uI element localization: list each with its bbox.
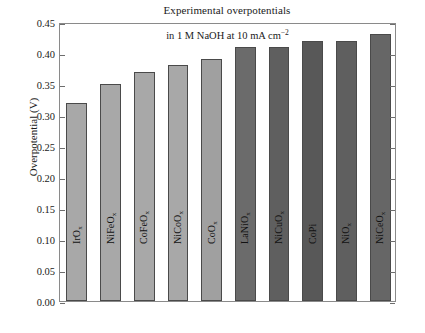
bar-category-label: IrOx [71,226,82,244]
y-tick-mark-left [60,303,65,304]
y-tick-mark-left [60,210,65,211]
bar-category-label: LaNiOx [239,212,250,244]
y-tick-mark-left [60,241,65,242]
y-axis-tick-labels: 0.450.400.350.300.250.200.150.100.050.00 [12,0,55,333]
bar-category-label: CoPi [307,224,318,244]
bar-category-label: CoFeOx [138,211,149,244]
y-tick-label: 0.30 [15,111,55,122]
y-tick-mark-right [390,24,395,25]
bar-category-label: NiOx [340,223,351,244]
bar[interactable] [201,59,222,301]
bar[interactable] [269,47,290,301]
y-tick-mark-left [60,55,65,56]
y-tick-mark-right [390,272,395,273]
y-tick-label: 0.15 [15,204,55,215]
y-tick-mark-right [390,55,395,56]
y-tick-mark-right [390,179,395,180]
plot-annotation: in 1 M NaOH at 10 mA cm−2 [59,30,396,41]
bar[interactable] [370,34,391,301]
bar[interactable] [134,72,155,301]
y-tick-label: 0.05 [15,266,55,277]
bar[interactable] [100,84,121,301]
y-tick-mark-right [390,148,395,149]
chart-figure: Experimental overpotentials Overpotentia… [0,0,425,333]
y-tick-mark-right [390,210,395,211]
y-tick-label: 0.10 [15,235,55,246]
bar-category-label: CoOx [206,221,217,244]
y-tick-mark-left [60,24,65,25]
y-tick-mark-right [390,303,395,304]
bar[interactable] [66,103,87,301]
bar-category-label: NiCeOx [374,212,385,244]
annotation-superscript: −2 [281,28,289,37]
y-tick-mark-left [60,86,65,87]
y-tick-mark-left [60,179,65,180]
bar-category-label: NiCuOx [273,211,284,244]
annotation-text: in 1 M NaOH at 10 mA cm [166,30,281,41]
y-tick-label: 0.45 [15,18,55,29]
chart-title: Experimental overpotentials [59,4,395,16]
bar[interactable] [235,47,256,301]
y-tick-mark-right [390,117,395,118]
y-tick-mark-left [60,148,65,149]
bar-category-label: NiCoOx [172,211,183,244]
bar-category-label: NiFeOx [105,213,116,244]
bars-container: IrOxNiFeOxCoFeOxNiCoOxCoOxLaNiOxNiCuOxCo… [60,24,395,301]
y-tick-label: 0.00 [15,297,55,308]
bar[interactable] [302,41,323,301]
plot-area: IrOxNiFeOxCoFeOxNiCoOxCoOxLaNiOxNiCuOxCo… [59,23,396,302]
bar[interactable] [168,65,189,301]
y-tick-mark-left [60,272,65,273]
y-tick-label: 0.35 [15,80,55,91]
y-tick-label: 0.25 [15,142,55,153]
y-tick-mark-right [390,86,395,87]
bar[interactable] [336,41,357,301]
y-tick-label: 0.40 [15,49,55,60]
y-tick-mark-left [60,117,65,118]
y-tick-mark-right [390,241,395,242]
y-tick-label: 0.20 [15,173,55,184]
